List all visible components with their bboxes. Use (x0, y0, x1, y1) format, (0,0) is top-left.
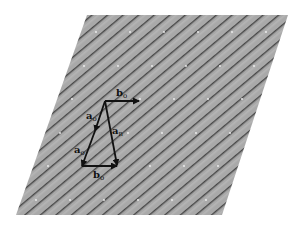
lattice-plane (16, 15, 288, 215)
lattice-diagram: bo ao an ao bo (0, 0, 304, 228)
